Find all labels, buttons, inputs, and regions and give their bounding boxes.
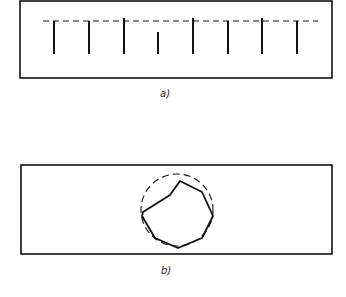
measured-profile-polygon — [142, 181, 213, 248]
figure-a — [20, 1, 332, 78]
tick-marks — [54, 18, 297, 54]
figure-a-frame — [20, 1, 332, 78]
figure-b — [21, 165, 332, 254]
caption-b: b) — [161, 265, 171, 276]
diagram-canvas — [0, 0, 346, 297]
figure-b-frame — [21, 165, 332, 254]
caption-a: a) — [160, 88, 170, 99]
